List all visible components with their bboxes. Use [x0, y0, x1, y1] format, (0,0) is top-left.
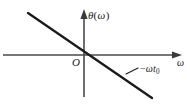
- slope-annotation-subscript: 0: [156, 68, 160, 76]
- slope-annotation-omega: ω: [146, 63, 153, 74]
- x-axis-label-omega: ω: [177, 57, 184, 68]
- y-axis-label-close-paren: ): [106, 9, 110, 21]
- origin-label-text: O: [72, 56, 80, 68]
- y-axis-label-omega: ω: [97, 9, 105, 21]
- y-axis-arrowhead: [80, 9, 87, 19]
- origin-label: O: [72, 57, 80, 68]
- y-axis-label: θ(ω): [88, 10, 109, 21]
- figure-container: θ(ω) ω O −ωt0: [0, 0, 190, 107]
- x-axis-label: ω: [177, 58, 184, 68]
- slope-annotation-label: −ωt0: [140, 64, 159, 76]
- annotation-leader-line: [126, 68, 138, 74]
